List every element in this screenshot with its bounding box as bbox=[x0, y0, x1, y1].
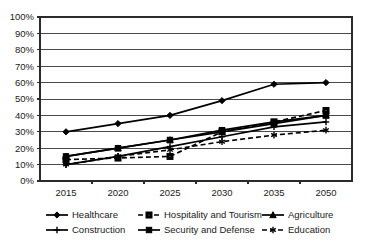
legend-label: Healthcare bbox=[72, 209, 118, 220]
legend-item-hospitality-and-tourism[interactable]: Hospitality and Tourism bbox=[138, 209, 262, 220]
y-tick-label: 80% bbox=[15, 44, 35, 55]
chart-canvas: 0%10%20%30%40%50%60%70%80%90%100% 201520… bbox=[0, 0, 376, 244]
y-tick-label: 10% bbox=[15, 159, 35, 170]
data-point bbox=[323, 80, 329, 86]
legend-item-agriculture[interactable]: Agriculture bbox=[262, 209, 333, 220]
x-tick-label: 2035 bbox=[263, 187, 284, 198]
legend-marker bbox=[54, 227, 60, 233]
legend-marker bbox=[146, 227, 151, 232]
data-point bbox=[271, 81, 277, 87]
x-tick-label: 2020 bbox=[107, 187, 128, 198]
legend-label: Hospitality and Tourism bbox=[164, 209, 262, 220]
y-tick-label: 50% bbox=[15, 93, 35, 104]
y-tick-label: 0% bbox=[20, 175, 34, 186]
series-path bbox=[66, 83, 326, 132]
series-layer bbox=[63, 80, 329, 168]
legend-item-construction[interactable]: Construction bbox=[46, 224, 125, 235]
data-point bbox=[219, 98, 225, 104]
chart-legend: HealthcareHospitality and TourismAgricul… bbox=[46, 209, 333, 235]
data-point bbox=[271, 119, 276, 124]
data-point bbox=[115, 121, 121, 127]
data-point bbox=[63, 129, 69, 135]
x-axis-tick-labels: 201520202025203020352050 bbox=[55, 187, 336, 198]
legend-item-security-and-defense[interactable]: Security and Defense bbox=[138, 224, 255, 235]
legend-item-healthcare[interactable]: Healthcare bbox=[46, 209, 118, 220]
x-tick-label: 2025 bbox=[159, 187, 180, 198]
legend-marker-center bbox=[148, 214, 150, 216]
y-tick-label: 20% bbox=[15, 143, 35, 154]
series-path bbox=[66, 122, 326, 165]
y-tick-label: 30% bbox=[15, 126, 35, 137]
data-point bbox=[219, 127, 224, 132]
y-tick-label: 100% bbox=[10, 11, 35, 22]
data-point bbox=[323, 119, 329, 125]
x-tick-label: 2030 bbox=[211, 187, 232, 198]
series-security-and-defense bbox=[63, 113, 328, 159]
y-tick-label: 70% bbox=[15, 61, 35, 72]
y-tick-label: 60% bbox=[15, 77, 35, 88]
y-tick-label: 40% bbox=[15, 110, 35, 121]
data-point bbox=[167, 112, 173, 118]
legend-label: Education bbox=[288, 224, 330, 235]
y-axis-tick-labels: 0%10%20%30%40%50%60%70%80%90%100% bbox=[10, 11, 35, 186]
data-point-center bbox=[169, 155, 171, 157]
legend-label: Construction bbox=[72, 224, 125, 235]
legend-label: Agriculture bbox=[288, 209, 333, 220]
legend-marker bbox=[54, 212, 60, 218]
y-tick-label: 90% bbox=[15, 28, 35, 39]
series-education bbox=[63, 127, 329, 168]
x-tick-label: 2050 bbox=[315, 187, 336, 198]
data-point bbox=[115, 146, 120, 151]
series-healthcare bbox=[63, 80, 329, 135]
legend-item-education[interactable]: Education bbox=[262, 224, 330, 235]
x-tick-label: 2015 bbox=[55, 187, 76, 198]
legend-label: Security and Defense bbox=[164, 224, 255, 235]
line-chart: 0%10%20%30%40%50%60%70%80%90%100% 201520… bbox=[0, 0, 376, 244]
data-point bbox=[63, 154, 68, 159]
data-point bbox=[167, 137, 172, 142]
data-point bbox=[323, 113, 328, 118]
